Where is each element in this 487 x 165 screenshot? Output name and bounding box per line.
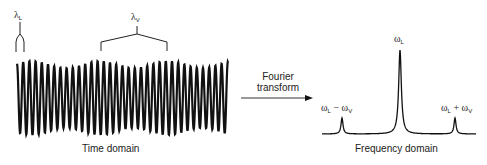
fourier-label-line1: Fourier [250,71,306,82]
frequency-spectrum [322,50,476,134]
time-domain-waveform [17,61,228,135]
peak-label-difference: ωL − ωV [321,102,352,114]
time-domain-caption: Time domain [82,143,139,154]
lambda-l-label: λL [14,9,22,21]
diagram-canvas [0,0,487,165]
fourier-label-line2: transform [250,82,306,93]
fourier-arrow [241,95,313,101]
peak-label-laser: ωL [394,33,404,45]
lambda-v-label: λV [131,11,140,23]
lambda-l-bracket [16,22,24,52]
lambda-v-bracket [101,26,167,51]
fourier-transform-label: Fourier transform [250,71,306,93]
frequency-domain-caption: Frequency domain [355,143,438,154]
peak-label-sum: ωL + ωV [441,102,472,114]
